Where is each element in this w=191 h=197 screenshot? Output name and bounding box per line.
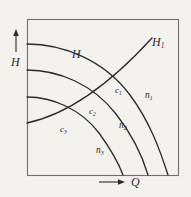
speed-label-n2-subscript: 2 (124, 125, 127, 131)
figure-canvas (0, 0, 191, 197)
operating-point-label-c3-subscript: 3 (64, 129, 67, 135)
discharge-axis-arrow-icon (99, 179, 125, 185)
head-curve-n3 (27, 97, 123, 175)
speed-label-n1-subscript: 1 (150, 95, 153, 101)
speed-label-n2: n2 (119, 121, 127, 131)
operating-point-label-c2-subscript: 2 (93, 111, 96, 117)
speed-label-n1: n1 (145, 91, 153, 101)
discharge-axis-label: Q (131, 176, 140, 188)
speed-label-n3-subscript: 3 (101, 150, 104, 156)
operating-point-label-c3: c3 (60, 125, 67, 134)
system-curve-label-base: H (152, 35, 161, 49)
speed-label-n3: n3 (96, 146, 104, 156)
head-axis-arrow-icon (13, 29, 19, 52)
head-curve-n2 (27, 70, 148, 175)
system-curve-label: H1 (152, 36, 164, 48)
pump-characteristic-figure: H Q H H1 n1 n2 n3 c1 c2 c3 (0, 0, 191, 197)
operating-point-label-c1-subscript: 1 (119, 90, 122, 96)
head-axis-label: H (11, 56, 20, 68)
operating-point-label-c1: c1 (115, 86, 122, 95)
system-curve-label-subscript: 1 (161, 41, 165, 50)
operating-point-label-c2: c2 (89, 107, 96, 116)
head-curve-label: H (72, 48, 81, 60)
